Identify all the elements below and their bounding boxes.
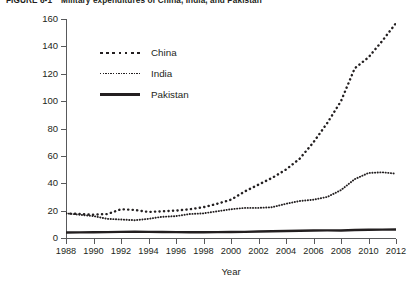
legend-item-india: India xyxy=(100,63,189,84)
x-tick-label: 2012 xyxy=(376,246,410,256)
y-tick-label: 120 xyxy=(18,69,58,78)
x-tick-mark xyxy=(176,239,177,244)
legend-item-china: China xyxy=(100,42,189,63)
x-tick-mark xyxy=(149,239,150,244)
x-tick-mark xyxy=(231,239,232,244)
legend-item-pakistan: Pakistan xyxy=(100,84,189,105)
x-tick-mark xyxy=(396,239,397,244)
x-tick-mark xyxy=(94,239,95,244)
legend-label-pakistan: Pakistan xyxy=(151,90,189,100)
legend-label-india: India xyxy=(151,69,172,79)
x-axis-label: Year xyxy=(0,266,410,277)
x-tick-mark xyxy=(66,239,67,244)
y-tick-label: 20 xyxy=(18,206,58,215)
y-tick-label: 160 xyxy=(18,14,58,23)
legend: China India Pakistan xyxy=(100,42,189,105)
x-tick-mark xyxy=(121,239,122,244)
y-tick-label: 40 xyxy=(18,178,58,187)
y-tick-label: 140 xyxy=(18,41,58,50)
figure-title: FIGURE 6-1Military expenditures of China… xyxy=(0,0,410,7)
legend-label-china: China xyxy=(151,48,177,58)
x-tick-mark xyxy=(204,239,205,244)
figure-caption: Military expenditures of China, India, a… xyxy=(61,0,262,5)
y-tick-label: 80 xyxy=(18,124,58,133)
legend-swatch-india-icon xyxy=(100,69,140,79)
x-tick-mark xyxy=(286,239,287,244)
x-axis-label-text: Year xyxy=(169,266,240,277)
figure-title-bar: FIGURE 6-1Military expenditures of China… xyxy=(0,0,410,7)
x-tick-mark xyxy=(341,239,342,244)
legend-swatch-pakistan-icon xyxy=(100,90,140,100)
x-tick-mark xyxy=(314,239,315,244)
legend-swatch-china-icon xyxy=(100,48,140,58)
x-tick-mark xyxy=(369,239,370,244)
y-tick-label: 60 xyxy=(18,151,58,160)
series-line-pakistan xyxy=(66,230,396,233)
series-line-india xyxy=(66,172,396,220)
y-tick-label: 100 xyxy=(18,96,58,105)
figure-container: FIGURE 6-1Military expenditures of China… xyxy=(0,0,410,286)
x-tick-mark xyxy=(259,239,260,244)
figure-number: FIGURE 6-1 xyxy=(6,0,52,5)
y-tick-label: 0 xyxy=(18,233,58,242)
